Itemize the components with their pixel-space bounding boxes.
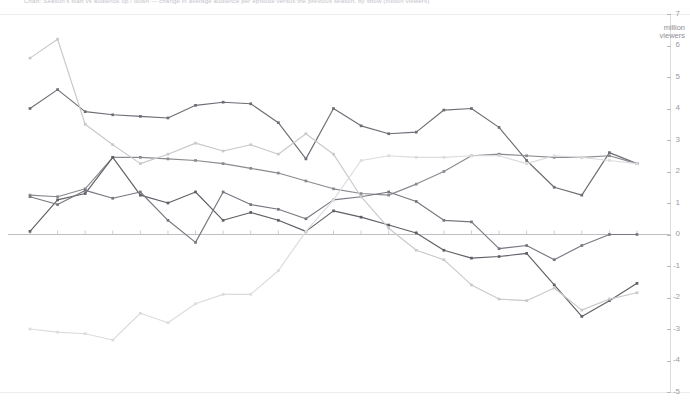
data-point-marker	[277, 121, 280, 124]
series-line	[30, 157, 637, 316]
data-point-marker	[498, 247, 501, 250]
data-point-marker	[277, 153, 280, 156]
data-point-marker	[636, 233, 639, 236]
data-point-marker	[387, 154, 390, 157]
data-point-marker	[111, 113, 114, 116]
data-point-marker	[443, 156, 446, 159]
data-point-marker	[580, 194, 583, 197]
data-point-marker	[111, 143, 114, 146]
data-point-marker	[580, 156, 583, 159]
data-point-marker	[415, 249, 418, 252]
data-point-marker	[332, 210, 335, 213]
data-point-marker	[56, 88, 59, 91]
data-point-marker	[277, 269, 280, 272]
data-point-marker	[332, 187, 335, 190]
data-point-marker	[553, 186, 556, 189]
data-point-marker	[222, 219, 225, 222]
data-point-marker	[387, 224, 390, 227]
data-point-marker	[470, 221, 473, 224]
data-point-marker	[332, 153, 335, 156]
data-point-marker	[84, 192, 87, 195]
data-point-marker	[608, 159, 611, 162]
data-point-marker	[360, 216, 363, 219]
data-point-marker	[277, 208, 280, 211]
data-point-marker	[415, 232, 418, 235]
data-point-marker	[443, 249, 446, 252]
data-point-marker	[56, 331, 59, 334]
y-axis-tick	[667, 14, 671, 15]
data-point-marker	[305, 158, 308, 161]
series-2	[29, 153, 639, 198]
data-point-marker	[553, 258, 556, 261]
data-point-marker	[443, 219, 446, 222]
data-point-marker	[29, 230, 32, 233]
chart-title-strip: Chart: Season's start vs audience up / d…	[0, 0, 690, 9]
data-point-marker	[139, 162, 142, 165]
data-point-marker	[194, 241, 197, 244]
data-point-marker	[29, 107, 32, 110]
data-point-marker	[415, 200, 418, 203]
data-point-marker	[29, 195, 32, 198]
data-point-marker	[553, 154, 556, 157]
data-point-marker	[167, 117, 170, 120]
data-point-marker	[167, 321, 170, 324]
data-point-marker	[553, 287, 556, 290]
data-point-marker	[387, 227, 390, 230]
data-point-marker	[415, 183, 418, 186]
page-title: Chart: Season's start vs audience up / d…	[24, 0, 429, 5]
data-point-marker	[167, 202, 170, 205]
data-point-marker	[29, 328, 32, 331]
data-point-marker	[608, 298, 611, 301]
series-5	[29, 38, 639, 312]
data-point-marker	[387, 191, 390, 194]
data-point-marker	[443, 170, 446, 173]
series-line	[30, 39, 637, 310]
data-point-marker	[305, 132, 308, 135]
data-point-marker	[139, 156, 142, 159]
data-point-marker	[249, 167, 252, 170]
data-point-marker	[139, 312, 142, 315]
data-point-marker	[305, 217, 308, 220]
data-point-marker	[332, 107, 335, 110]
data-point-marker	[222, 293, 225, 296]
data-point-marker	[56, 203, 59, 206]
data-point-marker	[360, 124, 363, 127]
data-point-marker	[525, 252, 528, 255]
data-point-marker	[580, 244, 583, 247]
data-point-marker	[29, 57, 32, 60]
y-axis-tick	[667, 109, 671, 110]
y-axis-tick	[667, 77, 671, 78]
data-point-marker	[525, 154, 528, 157]
data-point-marker	[249, 143, 252, 146]
data-point-marker	[525, 244, 528, 247]
series-line	[30, 154, 637, 197]
data-point-marker	[415, 156, 418, 159]
data-point-marker	[56, 38, 59, 41]
data-point-marker	[84, 123, 87, 126]
series-1	[29, 88, 639, 196]
data-point-marker	[498, 154, 501, 157]
data-point-marker	[222, 150, 225, 153]
y-axis-tick	[667, 298, 671, 299]
data-point-marker	[608, 233, 611, 236]
data-point-marker	[139, 194, 142, 197]
data-point-marker	[194, 104, 197, 107]
y-axis-tick	[667, 46, 671, 47]
data-point-marker	[249, 293, 252, 296]
data-point-marker	[277, 172, 280, 175]
y-axis-unit-line2: viewers	[660, 32, 685, 41]
data-point-marker	[580, 315, 583, 318]
data-point-marker	[167, 158, 170, 161]
divider-bottom	[0, 392, 690, 393]
data-point-marker	[415, 131, 418, 134]
data-point-marker	[139, 191, 142, 194]
data-point-marker	[443, 258, 446, 261]
data-point-marker	[277, 219, 280, 222]
data-point-marker	[56, 199, 59, 202]
data-point-marker	[525, 299, 528, 302]
data-point-marker	[194, 142, 197, 145]
y-axis-tick	[667, 329, 671, 330]
data-point-marker	[636, 282, 639, 285]
data-point-marker	[332, 199, 335, 202]
y-axis-tick	[667, 235, 671, 236]
